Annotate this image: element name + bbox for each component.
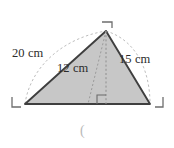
apex-corner-mark (102, 22, 112, 28)
caption-parenthesis: ( (80, 124, 85, 138)
bottom-right-corner-mark (155, 97, 163, 107)
triangle-figure: 20 cm 12 cm 15 cm ( (0, 0, 174, 148)
left-side-length-label: 20 cm (12, 47, 43, 60)
bottom-left-corner-mark (12, 97, 21, 107)
height-length-label: 12 cm (57, 62, 88, 75)
right-side-length-label: 15 cm (119, 53, 150, 66)
